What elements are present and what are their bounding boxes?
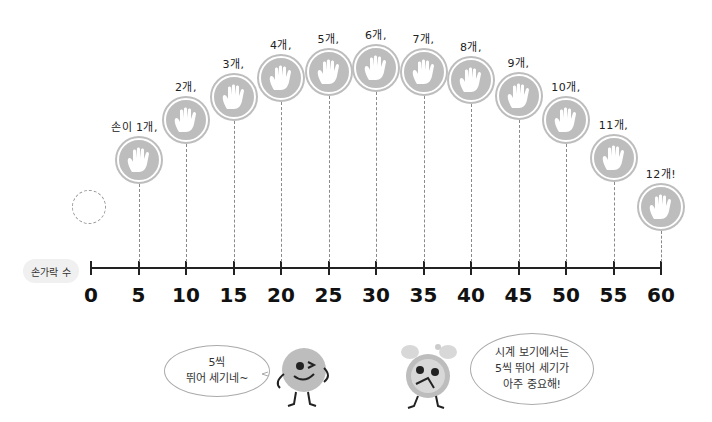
tick-mark <box>565 261 567 275</box>
hand-icon <box>212 75 256 119</box>
bubble-right-line1: 시계 보기에서는 <box>495 345 569 361</box>
hand-icon <box>307 50 351 94</box>
tick-mark <box>185 261 187 275</box>
speech-bubble-right: 시계 보기에서는 5씩 뛰어 세기가 아주 중요해! <box>470 333 594 405</box>
hand-icon <box>497 74 541 118</box>
tick-mark <box>660 261 662 275</box>
hand-icon <box>592 136 636 180</box>
tick-label: 45 <box>505 283 533 307</box>
tick-mark <box>328 261 330 275</box>
dashed-guide <box>566 144 567 262</box>
dashed-guide <box>471 104 472 262</box>
tick-mark <box>233 261 235 275</box>
tick-label: 0 <box>84 283 98 307</box>
hand-icon <box>449 58 493 102</box>
tick-mark <box>138 261 140 275</box>
dashed-guide <box>186 144 187 262</box>
tick-label: 10 <box>172 283 200 307</box>
hand-count-label: 11개, <box>599 116 629 132</box>
hand-icon <box>354 46 398 90</box>
tick-mark <box>613 261 615 275</box>
hand-count-label: 7개, <box>413 30 435 46</box>
tick-mark <box>375 261 377 275</box>
hand-count-label: 6개, <box>365 26 387 42</box>
bubble-right-line3: 아주 중요해! <box>503 377 561 393</box>
tick-label: 30 <box>362 283 390 307</box>
tick-label: 55 <box>600 283 628 307</box>
hand-icon <box>544 98 588 142</box>
tick-label: 50 <box>552 283 580 307</box>
hand-count-label: 12개! <box>646 165 676 181</box>
axis-title: 손가락 수 <box>23 259 79 283</box>
hand-count-label: 손이 1개, <box>111 118 158 134</box>
hand-count-label: 3개, <box>223 55 245 71</box>
hand-icon <box>639 185 683 229</box>
hand-count-label: 5개, <box>318 30 340 46</box>
dashed-guide <box>661 231 662 262</box>
ball-character-icon <box>262 340 340 412</box>
dashed-guide <box>234 121 235 262</box>
hand-count-label: 2개, <box>175 78 197 94</box>
tick-label: 60 <box>647 283 675 307</box>
hand-count-label: 4개, <box>270 36 292 52</box>
speech-bubble-left: 5씩 뛰어 세기네~ <box>164 345 270 397</box>
dashed-guide <box>139 184 140 262</box>
tick-mark <box>470 261 472 275</box>
alarm-clock-character-icon <box>398 338 462 414</box>
dashed-guide <box>519 120 520 262</box>
tick-mark <box>423 261 425 275</box>
bubble-right-line2: 5씩 뛰어 세기가 <box>495 361 569 377</box>
tick-mark <box>280 261 282 275</box>
bubble-left-line1: 5씩 <box>209 355 226 371</box>
tick-mark <box>90 261 92 275</box>
hand-count-label: 9개, <box>508 54 530 70</box>
tick-label: 5 <box>132 283 146 307</box>
tick-mark <box>518 261 520 275</box>
hand-icon <box>259 56 303 100</box>
empty-circle-zero <box>72 190 106 224</box>
dashed-guide <box>614 182 615 262</box>
dashed-guide <box>376 92 377 262</box>
axis-title-text: 손가락 수 <box>31 264 70 279</box>
hand-count-label: 8개, <box>460 38 482 54</box>
hand-icon <box>117 138 161 182</box>
tick-label: 35 <box>410 283 438 307</box>
hand-icon <box>164 98 208 142</box>
hand-icon <box>402 50 446 94</box>
bubble-left-line2: 뛰어 세기네~ <box>186 371 249 387</box>
dashed-guide <box>329 96 330 262</box>
tick-label: 20 <box>267 283 295 307</box>
hand-count-label: 10개, <box>551 78 581 94</box>
tick-label: 25 <box>315 283 343 307</box>
dashed-guide <box>281 102 282 262</box>
tick-label: 15 <box>220 283 248 307</box>
dashed-guide <box>424 96 425 262</box>
tick-label: 40 <box>457 283 485 307</box>
